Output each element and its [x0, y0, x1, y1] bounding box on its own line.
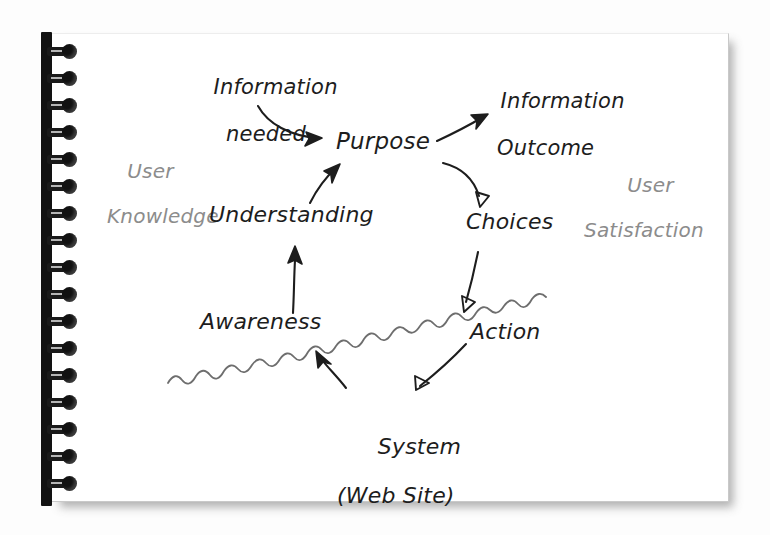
- binding-coil: [47, 260, 77, 275]
- annotation-user-knowledge-line2: Knowledge: [107, 205, 219, 227]
- binding-coil: [47, 233, 77, 248]
- annotation-user-satisfaction: User Satisfaction: [601, 152, 704, 286]
- binding-coil: [47, 98, 77, 113]
- node-action: Action: [470, 320, 541, 345]
- annotation-user-knowledge: User Knowledge: [101, 138, 219, 272]
- annotation-user-knowledge-line1: User: [127, 159, 173, 183]
- node-system: System (Web Site): [349, 410, 461, 535]
- binding-coil: [47, 314, 77, 329]
- node-choices: Choices: [466, 210, 553, 235]
- binding-coil: [47, 476, 77, 491]
- binding-coil: [47, 179, 77, 194]
- binding-coil: [47, 449, 77, 464]
- node-information-outcome-line1: Information: [501, 89, 625, 113]
- binding-coil: [47, 44, 77, 59]
- node-system-line1: System: [378, 434, 461, 459]
- binding-coil: [47, 125, 77, 140]
- node-system-line2: (Web Site): [337, 484, 461, 509]
- binding-coil: [47, 422, 77, 437]
- binding-coil: [47, 71, 77, 86]
- node-understanding: Understanding: [209, 203, 374, 228]
- annotation-user-satisfaction-line2: Satisfaction: [584, 219, 704, 241]
- binding-coil: [47, 152, 77, 167]
- binding-coil: [47, 206, 77, 221]
- binding-coil: [47, 341, 77, 356]
- binding-coil: [47, 395, 77, 410]
- node-purpose: Purpose: [336, 129, 430, 155]
- node-awareness: Awareness: [200, 310, 321, 335]
- node-information-needed-line2: needed: [226, 123, 338, 147]
- binding-coil: [47, 287, 77, 302]
- binding-coil: [47, 368, 77, 383]
- node-information-needed-line1: Information: [214, 75, 338, 99]
- spiral-binding: [41, 30, 77, 508]
- annotation-user-satisfaction-line1: User: [627, 173, 673, 197]
- sketch-scene: .stroke { fill:none; stroke:#1d1d1d; str…: [0, 0, 770, 535]
